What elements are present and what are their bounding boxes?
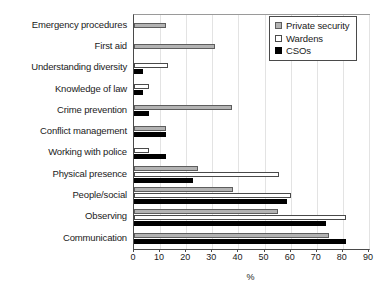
legend-swatch-icon (275, 22, 282, 29)
bar-group (134, 228, 369, 249)
gridline (369, 15, 370, 249)
legend-label: Wardens (286, 34, 323, 44)
bar-group (134, 100, 369, 121)
bar-group (134, 121, 369, 142)
category-label: Communication (0, 227, 131, 248)
bar-private (134, 209, 278, 214)
legend-swatch-icon (275, 35, 282, 42)
legend-swatch-icon (275, 47, 282, 54)
category-label: Observing (0, 205, 131, 226)
category-label: First aid (0, 35, 131, 56)
bar-csos (134, 154, 166, 159)
bar-private (134, 166, 198, 171)
legend-entry-wardens: Wardens (275, 34, 349, 44)
bar-csos (134, 132, 166, 137)
bar-csos (134, 239, 346, 244)
bar-private (134, 233, 329, 238)
x-axis: 0102030405060708090 (133, 249, 368, 271)
category-label: Understanding diversity (0, 57, 131, 78)
bar-csos (134, 90, 143, 95)
x-tick-label: 70 (311, 253, 321, 262)
x-tick-label: 30 (206, 253, 216, 262)
category-label: Crime prevention (0, 99, 131, 120)
x-tick-label: 0 (130, 253, 135, 262)
chart-legend: Private securityWardensCSOs (269, 16, 357, 61)
bar-group (134, 206, 369, 227)
x-tick-label: 20 (180, 253, 190, 262)
bar-private (134, 187, 233, 192)
bar-wardens (134, 84, 149, 89)
bar-chart: Emergency proceduresFirst aidUnderstandi… (0, 0, 392, 292)
bar-csos (134, 69, 143, 74)
bar-group (134, 164, 369, 185)
legend-label: CSOs (286, 46, 311, 56)
bar-private (134, 23, 166, 28)
bar-private (134, 105, 232, 110)
legend-label: Private security (286, 21, 349, 31)
bar-wardens (134, 172, 279, 177)
bar-group (134, 79, 369, 100)
category-label: Physical presence (0, 163, 131, 184)
x-tick-label: 10 (154, 253, 164, 262)
bar-wardens (134, 215, 346, 220)
bar-csos (134, 111, 149, 116)
bar-private (134, 126, 166, 131)
category-axis: Emergency proceduresFirst aidUnderstandi… (0, 14, 131, 248)
category-label: Working with police (0, 142, 131, 163)
x-tick-label: 60 (285, 253, 295, 262)
x-tick-label: 50 (259, 253, 269, 262)
bar-wardens (134, 193, 291, 198)
x-tick-label: 80 (337, 253, 347, 262)
legend-entry-private: Private security (275, 21, 349, 31)
bar-csos (134, 221, 326, 226)
x-axis-title: % (133, 272, 368, 282)
x-tick-label: 40 (232, 253, 242, 262)
bar-wardens (134, 63, 168, 68)
bar-group (134, 143, 369, 164)
category-label: People/social (0, 184, 131, 205)
legend-entry-csos: CSOs (275, 46, 349, 56)
x-tick-label: 90 (363, 253, 373, 262)
bar-csos (134, 178, 193, 183)
category-label: Conflict management (0, 120, 131, 141)
bar-private (134, 44, 215, 49)
category-label: Emergency procedures (0, 14, 131, 35)
bar-group (134, 185, 369, 206)
bar-wardens (134, 148, 149, 153)
category-label: Knowledge of law (0, 78, 131, 99)
bar-group (134, 58, 369, 79)
bar-csos (134, 199, 287, 204)
